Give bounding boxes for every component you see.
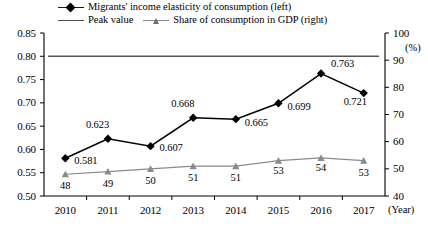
- x-axis-tick-label: 2016: [297, 205, 345, 216]
- x-axis-tick-label: 2012: [127, 205, 175, 216]
- y-axis-tick-label: 0.80: [0, 51, 36, 62]
- data-value-label: 0.623: [86, 120, 130, 131]
- data-value-label: 54: [299, 163, 343, 174]
- data-point-marker: [189, 114, 197, 122]
- y2-axis-tick-label: 40: [393, 191, 427, 202]
- data-value-label: 0.721: [344, 97, 388, 108]
- data-value-label: 53: [256, 166, 300, 177]
- y-axis-tick-label: 0.60: [0, 144, 36, 155]
- x-axis-tick-label: 2014: [212, 205, 260, 216]
- y2-axis-unit-label: (%): [405, 43, 421, 54]
- y2-axis-tick-label: 100: [393, 28, 427, 39]
- x-axis-tick-label: 2015: [254, 205, 302, 216]
- data-value-label: 0.581: [74, 156, 97, 167]
- plot-canvas: [0, 0, 428, 228]
- x-axis-tick-label: 2013: [169, 205, 217, 216]
- data-value-label: 50: [129, 176, 173, 187]
- y-axis-tick-label: 0.50: [0, 191, 36, 202]
- y-axis-tick-label: 0.65: [0, 121, 36, 132]
- data-point-marker: [146, 142, 154, 150]
- x-axis-tick-label: 2011: [84, 205, 132, 216]
- chart-figure: Migrants' income elasticity of consumpti…: [0, 0, 428, 228]
- data-value-label: 49: [86, 179, 130, 190]
- x-axis-tick-label: 2017: [340, 205, 388, 216]
- y-axis-tick-label: 0.85: [0, 28, 36, 39]
- x-axis-tick-label: 2010: [41, 205, 89, 216]
- data-point-marker: [61, 154, 69, 162]
- data-point-marker: [232, 115, 240, 123]
- data-value-label: 0.607: [160, 143, 183, 154]
- data-value-label: 53: [342, 168, 386, 179]
- data-value-label: 48: [43, 181, 87, 192]
- data-value-label: 0.699: [287, 102, 310, 113]
- data-value-label: 0.763: [331, 59, 354, 70]
- y-axis-tick-label: 0.55: [0, 167, 36, 178]
- data-point-marker: [104, 135, 112, 143]
- y2-axis-tick-label: 50: [393, 163, 427, 174]
- y-axis-tick-label: 0.75: [0, 74, 36, 85]
- series-line-0: [65, 74, 363, 159]
- y2-axis-tick-label: 60: [393, 136, 427, 147]
- y2-axis-tick-label: 70: [393, 109, 427, 120]
- data-value-label: 0.665: [245, 118, 268, 129]
- y2-axis-tick-label: 80: [393, 82, 427, 93]
- y2-axis-tick-label: 90: [393, 55, 427, 66]
- data-value-label: 51: [171, 173, 215, 184]
- x-axis-unit-label: (Year): [388, 205, 414, 216]
- data-value-label: 0.668: [171, 99, 215, 110]
- data-value-label: 51: [214, 173, 258, 184]
- y-axis-tick-label: 0.70: [0, 97, 36, 108]
